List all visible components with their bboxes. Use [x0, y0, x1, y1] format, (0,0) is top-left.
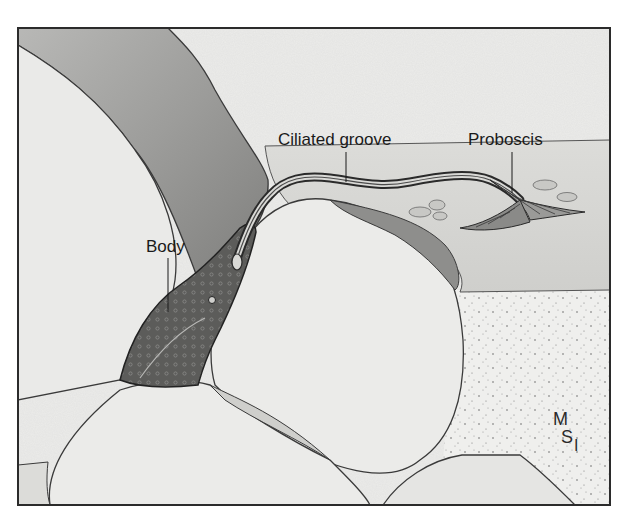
diagram-figure: Body Ciliated groove Proboscis M S I — [0, 0, 618, 528]
groove-tip — [232, 254, 242, 270]
signature-m: M — [553, 410, 568, 428]
signature-s: S — [561, 428, 573, 446]
signature-i: I — [574, 438, 578, 454]
gap-left — [18, 462, 50, 505]
illustration-canvas — [0, 0, 618, 528]
label-ciliated-groove: Ciliated groove — [278, 131, 391, 148]
label-proboscis: Proboscis — [468, 131, 543, 148]
body-pore — [209, 297, 216, 304]
label-body: Body — [146, 238, 185, 255]
